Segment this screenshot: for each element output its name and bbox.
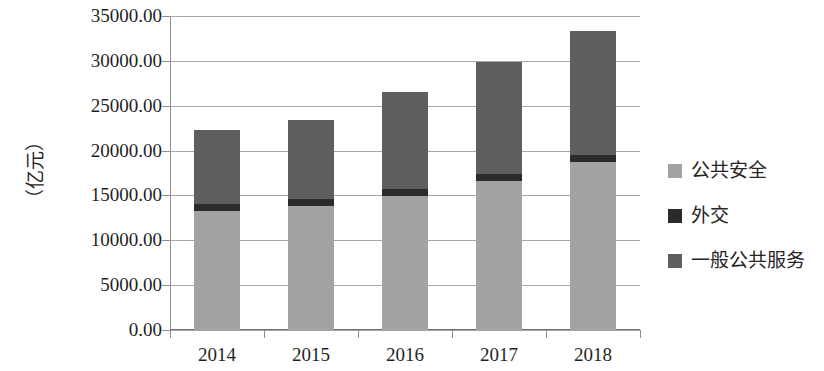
x-tick-label: 2014	[170, 344, 264, 366]
bar-segment[interactable]	[382, 189, 428, 196]
bar-segment[interactable]	[382, 196, 428, 330]
y-tick-mark	[162, 61, 170, 62]
y-tick-label: 5000.00	[12, 275, 162, 294]
y-tick-label: 30000.00	[12, 51, 162, 70]
y-tick-label: 25000.00	[12, 96, 162, 115]
bar-segment[interactable]	[382, 92, 428, 189]
bar-segment[interactable]	[194, 130, 240, 204]
x-tick-mark	[452, 330, 453, 338]
bar-segment[interactable]	[476, 62, 522, 174]
legend-swatch-icon	[668, 164, 682, 178]
legend-swatch-icon	[668, 254, 682, 268]
bar-group[interactable]	[288, 120, 334, 330]
x-tick-mark	[546, 330, 547, 338]
bar-segment[interactable]	[194, 211, 240, 330]
bar-group[interactable]	[194, 130, 240, 330]
y-tick-mark	[162, 151, 170, 152]
bar-segment[interactable]	[570, 155, 616, 162]
bar-segment[interactable]	[194, 204, 240, 211]
bar-segment[interactable]	[570, 31, 616, 155]
x-tick-mark	[264, 330, 265, 338]
legend-item[interactable]: 外交	[668, 193, 824, 238]
bars-layer	[170, 16, 640, 330]
legend-item[interactable]: 公共安全	[668, 148, 824, 193]
legend-swatch-icon	[668, 209, 682, 223]
y-tick-mark	[162, 330, 170, 331]
y-tick-label: 15000.00	[12, 185, 162, 204]
x-axis-labels: 20142015201620172018	[170, 344, 640, 371]
y-tick-mark	[162, 285, 170, 286]
legend-label: 公共安全	[691, 161, 767, 181]
x-tick-label: 2018	[546, 344, 640, 366]
y-tick-label: 35000.00	[12, 6, 162, 25]
x-tick-mark	[640, 330, 641, 338]
bar-segment[interactable]	[476, 174, 522, 181]
y-tick-mark	[162, 16, 170, 17]
chart-legend: 公共安全外交一般公共服务	[668, 148, 824, 283]
legend-label: 外交	[691, 206, 729, 226]
x-axis-ticks	[170, 330, 640, 340]
bar-segment[interactable]	[288, 206, 334, 330]
x-tick-mark	[358, 330, 359, 338]
bar-segment[interactable]	[476, 181, 522, 330]
stacked-bar-chart: （亿元） 0.005000.0010000.0015000.0020000.00…	[0, 0, 824, 371]
y-tick-mark	[162, 195, 170, 196]
x-tick-label: 2017	[452, 344, 546, 366]
bar-group[interactable]	[570, 31, 616, 330]
x-tick-label: 2016	[358, 344, 452, 366]
bar-group[interactable]	[476, 62, 522, 330]
x-tick-mark	[170, 330, 171, 338]
y-tick-label: 0.00	[12, 320, 162, 339]
y-axis-ticks: 0.005000.0010000.0015000.0020000.0025000…	[0, 16, 162, 330]
y-tick-label: 10000.00	[12, 230, 162, 249]
x-tick-label: 2015	[264, 344, 358, 366]
y-tick-label: 20000.00	[12, 141, 162, 160]
y-tick-mark	[162, 106, 170, 107]
bar-segment[interactable]	[570, 162, 616, 330]
bar-segment[interactable]	[288, 120, 334, 199]
legend-item[interactable]: 一般公共服务	[668, 238, 824, 283]
legend-label: 一般公共服务	[691, 251, 805, 271]
y-tick-mark	[162, 240, 170, 241]
bar-group[interactable]	[382, 92, 428, 330]
bar-segment[interactable]	[288, 199, 334, 206]
